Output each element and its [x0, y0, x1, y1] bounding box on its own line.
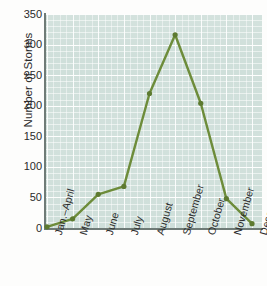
x-tick-label: November: [231, 186, 256, 237]
x-tick-label: December: [257, 186, 268, 237]
x-tick-label: June: [103, 211, 121, 237]
x-axis-tick-labels: Jan.–AprilMayJuneJulyAugustSeptemberOcto…: [0, 0, 267, 286]
x-tick-label: Jan.–April: [52, 187, 77, 236]
storm-frequency-line-chart: Number of Storms 050100150200250300350 J…: [0, 0, 267, 286]
x-tick-label: May: [77, 214, 94, 237]
x-tick-label: September: [180, 183, 206, 237]
x-tick-label: October: [205, 196, 227, 236]
x-tick-label: August: [154, 201, 175, 236]
x-tick-label: July: [128, 215, 145, 237]
